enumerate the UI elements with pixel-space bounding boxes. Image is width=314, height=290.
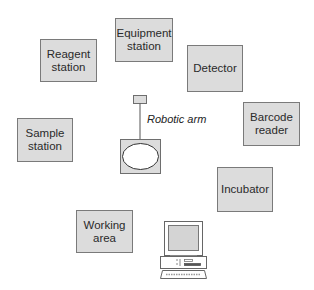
desktop-computer-icon [0, 0, 314, 290]
